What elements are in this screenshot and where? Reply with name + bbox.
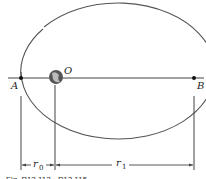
orbit-ellipse-arc xyxy=(21,33,40,72)
label-r0-sub: 0 xyxy=(39,164,43,172)
label-b: B xyxy=(196,80,204,91)
label-o: O xyxy=(64,65,72,76)
figure-caption: Fig. P13.113 - P13.115 xyxy=(6,175,88,179)
orbit-arc-left xyxy=(21,29,43,78)
orbit-ellipse xyxy=(21,3,206,139)
orbit-diagram: O A B r 0 r 1 Fig. P13.113 - P13.115 xyxy=(0,0,206,179)
point-b xyxy=(192,76,196,80)
label-a: A xyxy=(10,80,18,91)
point-a xyxy=(19,76,23,80)
label-r1-sub: 1 xyxy=(122,163,126,171)
